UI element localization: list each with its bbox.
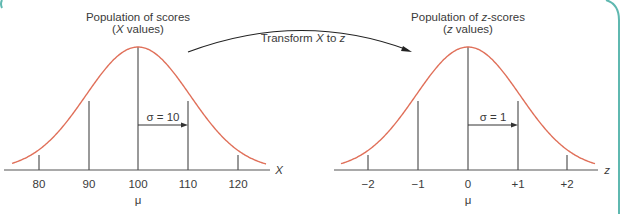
transform-label-x: X [316,32,324,44]
left-subtitle: (X values) [78,22,198,36]
left-subtitle-var: X [116,23,124,35]
transform-label-mid: to [324,32,340,44]
transform-arrowhead [401,46,412,52]
z-axis-label-right: z [600,163,614,177]
right-subtitle: (z values) [408,22,528,36]
tick-label-80: 80 [24,177,54,191]
tick-label-0: 0 [453,177,483,191]
sd-label-left: σ = 10 [140,110,186,124]
tick-label-pos1: +1 [503,177,533,191]
mean-label-left: μ [128,193,148,207]
right-subtitle-rest: values) [453,23,493,35]
transform-label: Transform X to z [248,31,358,45]
tick-label-100: 100 [123,177,153,191]
tick-label-pos2: +2 [552,177,582,191]
mean-label-right: μ [458,193,478,207]
tick-label-90: 90 [74,177,104,191]
frame-border-right [606,0,619,214]
tick-label-120: 120 [223,177,253,191]
tick-label-110: 110 [173,177,203,191]
transform-label-pre: Transform [261,32,316,44]
x-axis-label-left: X [272,163,286,177]
tick-label-neg2: −2 [353,177,383,191]
frame-corner-top-left [1,0,2,8]
normal-curve-left [12,47,266,164]
left-subtitle-rest: values) [124,23,164,35]
transform-label-z: z [340,32,346,44]
sd-label-right: σ = 1 [470,110,516,124]
z-score-transform-diagram: Population of scores (X values) Populati… [0,0,622,214]
tick-label-neg1: −1 [403,177,433,191]
